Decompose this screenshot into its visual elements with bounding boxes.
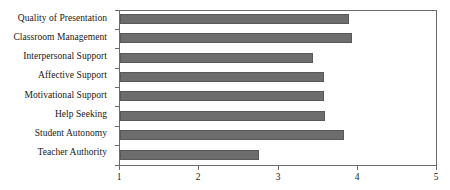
bar-chart: Quality of Presentation Classroom Manage…: [0, 0, 450, 190]
x-axis-tick-label-3: 3: [263, 171, 293, 183]
x-axis-tick-label-1: 1: [104, 171, 134, 183]
x-axis-tick-label-4: 4: [342, 171, 372, 183]
bar-affective-support: [120, 72, 324, 82]
category-label-help-seeking: Help Seeking: [55, 106, 107, 122]
x-axis-tick: [198, 166, 199, 170]
category-axis-labels: Quality of Presentation Classroom Manage…: [0, 10, 113, 166]
x-axis-tick: [278, 166, 279, 170]
x-axis-tick: [357, 166, 358, 170]
bar-interpersonal-support: [120, 53, 313, 63]
bar-student-autonomy: [120, 130, 344, 140]
bar-teacher-authority: [120, 150, 259, 160]
x-axis-tick-label-5: 5: [421, 171, 450, 183]
x-axis-tick: [436, 166, 437, 170]
plot-area: [119, 10, 437, 166]
category-label-teacher-authority: Teacher Authority: [37, 144, 107, 160]
category-label-affective-support: Affective Support: [38, 67, 107, 83]
category-label-interpersonal-support: Interpersonal Support: [23, 48, 107, 64]
category-label-student-autonomy: Student Autonomy: [35, 125, 107, 141]
category-label-quality-of-presentation: Quality of Presentation: [18, 10, 107, 26]
bar-classroom-management: [120, 33, 352, 43]
bar-help-seeking: [120, 111, 325, 121]
bar-quality-of-presentation: [120, 14, 349, 24]
x-axis-tick: [119, 166, 120, 170]
bar-motivational-support: [120, 91, 324, 101]
bars-container: [120, 11, 436, 165]
category-label-classroom-management: Classroom Management: [13, 29, 107, 45]
category-label-motivational-support: Motivational Support: [24, 87, 107, 103]
x-axis-tick-label-2: 2: [183, 171, 213, 183]
